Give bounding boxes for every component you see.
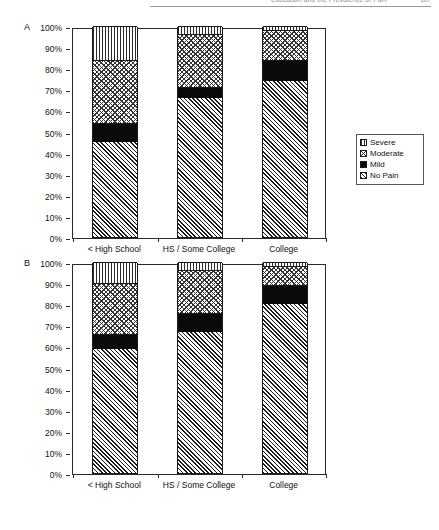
stacked-bar xyxy=(177,27,223,238)
bar-segment-severe xyxy=(263,262,307,266)
figure-page: Education and the Prevalence of Pain 107… xyxy=(0,0,439,530)
bar-segment-mild xyxy=(93,334,137,349)
bar-segment-severe xyxy=(263,26,307,30)
y-tick-mark xyxy=(66,218,70,219)
bar-segment-no-pain xyxy=(93,349,137,473)
x-tick-label: < High School xyxy=(88,244,141,254)
y-axis-b: 0%10%20%30%40%50%60%70%80%90%100% xyxy=(0,264,70,475)
y-tick-mark xyxy=(66,155,70,156)
y-tick-label: 60% xyxy=(45,108,62,116)
x-tick-mark xyxy=(242,474,243,478)
bar-segment-moderate xyxy=(93,283,137,334)
bar-segment-no-pain xyxy=(263,81,307,237)
y-tick-label: 60% xyxy=(45,344,62,352)
bar-segment-severe xyxy=(178,262,222,270)
y-tick-mark xyxy=(66,28,70,29)
plot-area-a xyxy=(72,28,326,239)
y-tick-label: 80% xyxy=(45,66,62,74)
bar-segment-moderate xyxy=(178,34,222,87)
y-tick-label: 10% xyxy=(45,450,62,458)
y-tick-mark xyxy=(66,197,70,198)
bar-segment-moderate xyxy=(263,266,307,285)
x-tick-mark xyxy=(326,474,327,478)
legend-label: Mild xyxy=(370,161,385,169)
y-tick-label: 20% xyxy=(45,193,62,201)
y-tick-label: 100% xyxy=(40,260,62,268)
legend-item: Mild xyxy=(360,159,420,170)
legend-label: Severe xyxy=(370,139,395,147)
y-tick-label: 10% xyxy=(45,214,62,222)
y-tick-mark xyxy=(66,391,70,392)
y-tick-mark xyxy=(66,306,70,307)
bar-segment-no-pain xyxy=(93,142,137,237)
x-tick-mark xyxy=(158,474,159,478)
running-head-title: Education and the Prevalence of Pain xyxy=(271,0,387,3)
x-tick-mark xyxy=(73,474,74,478)
legend-item: Severe xyxy=(360,137,420,148)
plot-area-b xyxy=(72,264,326,475)
y-tick-mark xyxy=(66,454,70,455)
bar-segment-severe xyxy=(93,26,137,60)
y-tick-label: 40% xyxy=(45,387,62,395)
x-tick-label: College xyxy=(269,244,298,254)
x-axis-b: < High SchoolHS / Some CollegeCollege xyxy=(72,480,326,496)
stacked-bar xyxy=(92,263,138,474)
legend-item: Moderate xyxy=(360,148,420,159)
legend-label: No Pain xyxy=(370,172,398,180)
bar-segment-moderate xyxy=(93,60,137,123)
y-tick-mark xyxy=(66,412,70,413)
stacked-bar xyxy=(177,263,223,474)
y-tick-mark xyxy=(66,475,70,476)
y-tick-label: 70% xyxy=(45,87,62,95)
y-tick-label: 70% xyxy=(45,323,62,331)
bar-segment-mild xyxy=(93,123,137,142)
legend-label: Moderate xyxy=(370,150,404,158)
y-tick-mark xyxy=(66,70,70,71)
y-tick-label: 20% xyxy=(45,429,62,437)
x-tick-label: HS / Some College xyxy=(163,480,235,490)
y-tick-label: 0% xyxy=(50,235,62,243)
stacked-bar xyxy=(262,27,308,238)
y-tick-label: 50% xyxy=(45,366,62,374)
bar-segment-moderate xyxy=(178,270,222,312)
stacked-bar xyxy=(262,263,308,474)
running-head: Education and the Prevalence of Pain 107 xyxy=(0,0,439,7)
y-tick-mark xyxy=(66,327,70,328)
y-tick-mark xyxy=(66,239,70,240)
x-tick-mark xyxy=(326,238,327,242)
x-tick-label: HS / Some College xyxy=(163,244,235,254)
y-tick-mark xyxy=(66,285,70,286)
y-tick-mark xyxy=(66,370,70,371)
bar-segment-moderate xyxy=(263,30,307,60)
bar-segment-no-pain xyxy=(178,98,222,237)
legend-item: No Pain xyxy=(360,170,420,181)
chart-panel-b: B 0%10%20%30%40%50%60%70%80%90%100% < Hi… xyxy=(0,258,439,506)
x-tick-mark xyxy=(158,238,159,242)
bar-segment-mild xyxy=(263,285,307,304)
y-tick-mark xyxy=(66,91,70,92)
x-tick-mark xyxy=(73,238,74,242)
y-tick-label: 90% xyxy=(45,281,62,289)
y-tick-label: 80% xyxy=(45,302,62,310)
running-head-rule xyxy=(150,6,431,7)
legend-a: SevereModerateMildNo Pain xyxy=(356,134,424,185)
y-tick-label: 0% xyxy=(50,471,62,479)
stacked-bar xyxy=(92,27,138,238)
legend-swatch-moderate-icon xyxy=(360,150,367,157)
y-tick-mark xyxy=(66,112,70,113)
y-tick-mark xyxy=(66,176,70,177)
y-tick-label: 100% xyxy=(40,24,62,32)
y-tick-mark xyxy=(66,134,70,135)
y-axis-a: 0%10%20%30%40%50%60%70%80%90%100% xyxy=(0,28,70,239)
bar-segment-severe xyxy=(93,262,137,283)
bar-segment-mild xyxy=(263,60,307,81)
legend-swatch-mild-icon xyxy=(360,161,367,168)
bar-segment-no-pain xyxy=(178,332,222,473)
y-tick-label: 40% xyxy=(45,151,62,159)
running-head-page-number: 107 xyxy=(420,0,431,3)
y-tick-mark xyxy=(66,433,70,434)
y-tick-mark xyxy=(66,49,70,50)
bar-segment-no-pain xyxy=(263,304,307,473)
y-tick-mark xyxy=(66,348,70,349)
x-tick-label: < High School xyxy=(88,480,141,490)
